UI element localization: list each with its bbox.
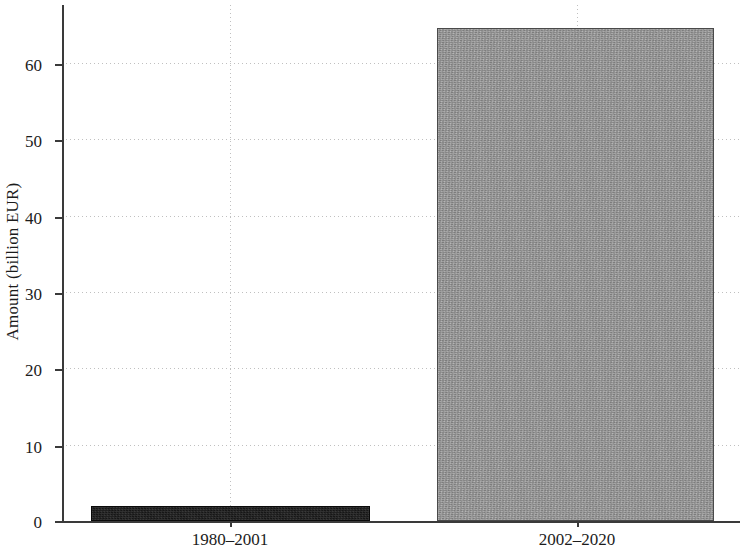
y-tick-label-10: 10	[0, 439, 42, 456]
x-axis-spine	[62, 521, 740, 523]
plot-area: 60 50 40 30 20 10 0 1980–2001 2002–2020	[62, 5, 740, 523]
y-tick-label-30: 30	[0, 286, 42, 303]
y-axis-spine	[62, 5, 64, 523]
gridline-x-1980-2001	[230, 5, 231, 521]
x-tick-1980-2001	[230, 521, 232, 527]
y-tick-label-60: 60	[0, 57, 42, 74]
x-tick-2002-2020	[577, 521, 579, 527]
y-tick-label-50: 50	[0, 133, 42, 150]
y-tick-30	[55, 293, 62, 295]
y-tick-0	[55, 521, 62, 523]
y-tick-60	[55, 64, 62, 66]
y-tick-label-20: 20	[0, 362, 42, 379]
x-tick-label-1980-2001: 1980–2001	[120, 529, 340, 551]
y-tick-10	[55, 446, 62, 448]
y-tick-label-0: 0	[0, 514, 42, 531]
y-tick-20	[55, 369, 62, 371]
y-tick-50	[55, 140, 62, 142]
bar-1980-2001	[91, 506, 370, 521]
x-tick-label-2002-2020: 2002–2020	[467, 529, 687, 551]
y-tick-40	[55, 217, 62, 219]
bar-chart-figure: Amount (billion EUR) 60 50 40 30 20 10 0	[0, 0, 746, 551]
y-tick-label-40: 40	[0, 210, 42, 227]
bar-2002-2020	[437, 28, 714, 521]
